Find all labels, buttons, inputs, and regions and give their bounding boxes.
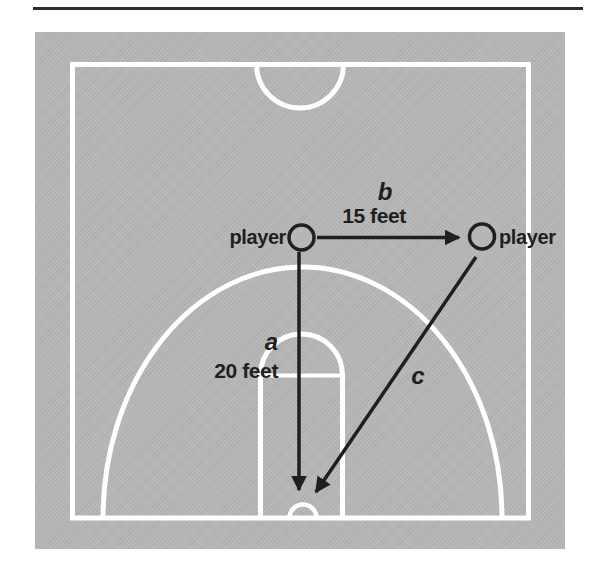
side-a-length-label: 20 feet bbox=[158, 360, 278, 382]
player-right-circle bbox=[470, 224, 495, 249]
player-left-label: player bbox=[160, 225, 286, 249]
figure-basketball-court: player player b 15 feet a 20 feet c bbox=[0, 0, 591, 571]
side-a-name-label: a bbox=[198, 330, 278, 354]
center-circle-arc bbox=[257, 65, 344, 108]
side-c-name-label: c bbox=[398, 364, 438, 388]
player-right-label: player bbox=[499, 225, 556, 249]
court-diagram-svg bbox=[0, 0, 591, 571]
side-b-length-label: 15 feet bbox=[314, 205, 434, 227]
player-left-circle bbox=[289, 225, 314, 250]
side-b-name-label: b bbox=[335, 180, 435, 204]
